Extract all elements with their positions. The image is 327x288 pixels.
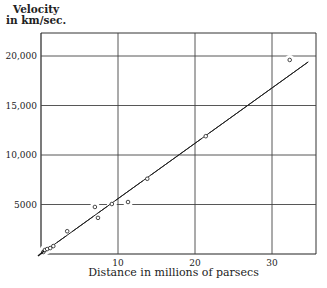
data-point xyxy=(145,177,149,181)
y-tick-label: 15,000 xyxy=(6,101,38,111)
data-point xyxy=(204,134,208,138)
y-tick-label: 20,000 xyxy=(6,51,38,61)
y-tick-label: 5000 xyxy=(14,200,37,210)
y-tick-label: 10,000 xyxy=(6,150,38,160)
data-point xyxy=(93,205,97,209)
data-point xyxy=(110,202,114,206)
x-axis-label: Distance in millions of parsecs xyxy=(0,266,327,279)
data-point xyxy=(96,216,100,220)
data-point xyxy=(126,200,130,204)
data-point xyxy=(52,244,56,248)
plot-area: 500010,00015,00020,000102030 xyxy=(0,0,327,288)
data-point xyxy=(288,58,292,62)
fit-line-overlay xyxy=(41,62,308,254)
data-point xyxy=(65,229,69,233)
